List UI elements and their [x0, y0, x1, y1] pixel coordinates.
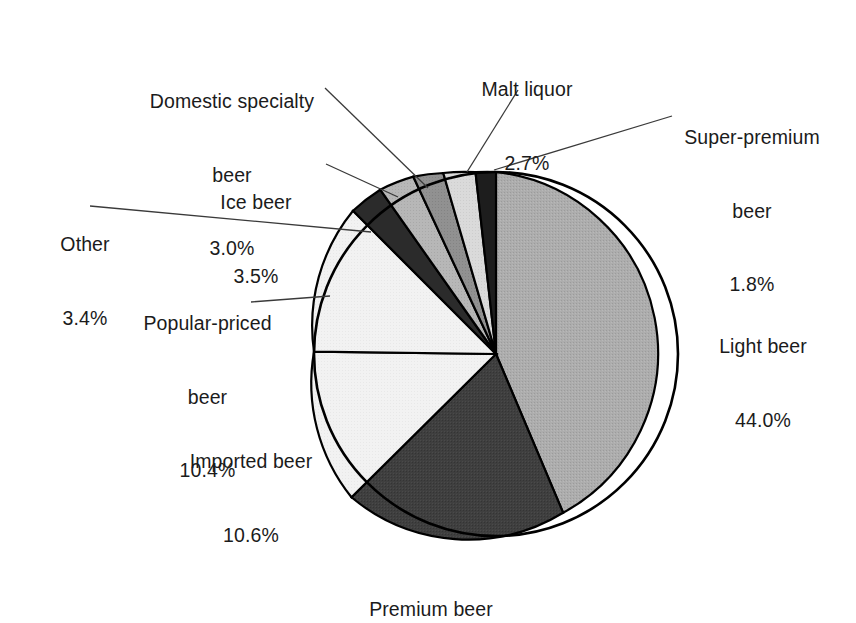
pie-chart-figure: Domestic specialty beer 3.0% Malt liquor… — [0, 0, 856, 623]
label-line-1: Ice beer — [185, 190, 327, 215]
label-value: 44.0% — [688, 408, 838, 433]
slice-label-imported-beer: Imported beer 10.6% — [158, 400, 344, 596]
slice-label-light-beer: Light beer 44.0% — [688, 285, 838, 481]
leader-line-ice-beer — [326, 164, 398, 197]
label-value: 10.6% — [158, 523, 344, 548]
label-line-1: Domestic specialty — [137, 89, 327, 114]
label-line-1: Premium beer — [331, 597, 531, 622]
label-value: 2.7% — [452, 151, 602, 176]
label-line-1: Other — [30, 232, 140, 257]
label-line-1: Popular-priced — [105, 311, 310, 336]
slice-label-malt-liquor: Malt liquor 2.7% — [452, 28, 602, 224]
leader-line-domestic-specialty-beer — [325, 88, 428, 188]
slice-label-premium-beer: Premium beer 20.6% — [331, 548, 531, 623]
label-line-1: Light beer — [688, 334, 838, 359]
label-line-1: Malt liquor — [452, 77, 602, 102]
label-line-1: Super-premium — [672, 125, 832, 150]
label-line-1: Imported beer — [158, 449, 344, 474]
label-line-2: beer — [672, 199, 832, 224]
